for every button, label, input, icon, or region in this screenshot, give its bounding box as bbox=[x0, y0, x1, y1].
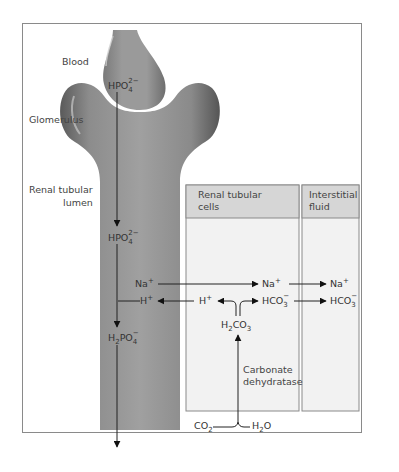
panel-header-cells: Renal tubular cells bbox=[198, 189, 262, 213]
label-lumen-line2: lumen bbox=[63, 197, 93, 209]
species-hpo4-blood: HPO2−4 bbox=[108, 80, 135, 92]
species-hco3-isf: HCO−3 bbox=[330, 295, 358, 307]
species-h-lumen: H+ bbox=[140, 295, 153, 308]
panel-header-isf: Interstitial fluid bbox=[309, 189, 357, 213]
species-hco3-cell: HCO−3 bbox=[262, 295, 290, 307]
diagram-artwork bbox=[0, 0, 399, 472]
species-h2o: H2O bbox=[252, 420, 271, 433]
label-carbonate-dehydratase: Carbonate dehydratase bbox=[243, 364, 303, 388]
species-h-cell: H+ bbox=[199, 295, 212, 308]
species-na-cell: Na+ bbox=[262, 278, 281, 291]
label-lumen-line1: Renal tubular bbox=[29, 184, 93, 196]
species-hpo4-lumen: HPO2−4 bbox=[108, 232, 135, 244]
species-h2po4: H2PO−4 bbox=[108, 332, 140, 345]
label-glomerulus: Glomerulus bbox=[29, 114, 83, 126]
blood-vessel-shape bbox=[103, 30, 165, 110]
species-co2: CO2 bbox=[194, 420, 213, 433]
species-h2co3: H2CO3 bbox=[221, 319, 251, 332]
species-na-lumen: Na+ bbox=[135, 278, 154, 291]
label-blood: Blood bbox=[62, 56, 89, 68]
species-na-isf: Na+ bbox=[330, 278, 349, 291]
